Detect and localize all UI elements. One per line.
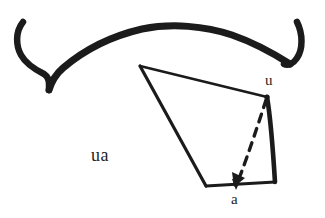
- quad-left-edge: [140, 66, 206, 186]
- vertex-label-a: a: [231, 192, 238, 207]
- hand-drawn-arc-with-hooked-ends: [17, 22, 301, 90]
- dashed-arrow-from-u-to-a: [232, 100, 266, 187]
- quad-top-edge: [140, 66, 267, 97]
- figure-canvas: ua u a: [0, 0, 325, 218]
- arc-left-hook: [17, 22, 49, 90]
- vertex-label-u: u: [265, 73, 273, 88]
- quadrilateral-outline: [140, 66, 275, 186]
- dashed-path: [240, 100, 266, 176]
- figure-caption-ua: ua: [91, 146, 109, 164]
- quad-right-edge: [267, 97, 275, 182]
- quad-bottom-edge: [206, 182, 275, 186]
- arc-main-sweep: [49, 26, 290, 90]
- figure-drawing: [0, 0, 325, 218]
